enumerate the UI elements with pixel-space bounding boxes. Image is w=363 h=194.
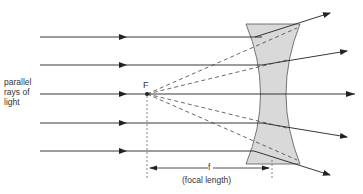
focal-point-label: F	[143, 80, 149, 90]
parallel-rays-label: parallel rays of light	[4, 77, 31, 107]
lens-diagram	[0, 0, 363, 194]
dim-arrow-right	[262, 166, 270, 171]
label-line-3: light	[4, 97, 31, 107]
focal-length-label: (focal length)	[182, 175, 231, 185]
focal-symbol-label: f	[208, 162, 210, 172]
focal-point-dot	[145, 92, 149, 96]
label-line-1: parallel	[4, 77, 31, 87]
dim-arrow-left	[149, 166, 157, 171]
incoming-rays	[40, 37, 355, 151]
label-line-2: rays of	[4, 87, 31, 97]
